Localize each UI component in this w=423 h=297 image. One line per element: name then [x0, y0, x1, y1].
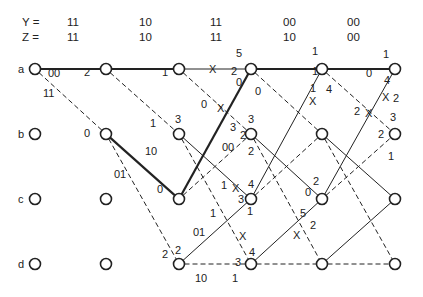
- state-node-d-0: [30, 259, 41, 270]
- state-node-a-1: [101, 64, 112, 75]
- metric-label: 2: [354, 105, 360, 117]
- branch-metric-labels: 0011201100113052000332002143110122101341…: [43, 45, 399, 284]
- cross-mark-icon: X: [209, 63, 217, 75]
- state-node-b-2: [174, 129, 185, 140]
- state-node-c-1: [101, 194, 112, 205]
- state-node-a-0: [30, 64, 41, 75]
- state-node-a-4: [317, 64, 328, 75]
- header-y-row: Y = 11 10 11 00 00: [22, 16, 360, 28]
- state-node-b-5: [390, 129, 401, 140]
- metric-label: 0: [305, 186, 311, 198]
- metric-label: 1: [221, 179, 227, 191]
- y-value-4: 00: [283, 16, 296, 28]
- state-node-c-4: [317, 194, 328, 205]
- state-node-c-0: [30, 194, 41, 205]
- cross-mark-icon: X: [217, 102, 225, 114]
- metric-label: 10: [145, 145, 157, 157]
- state-node-c-3: [246, 194, 257, 205]
- metric-label: 2: [310, 219, 316, 231]
- state-node-b-0: [30, 129, 41, 140]
- header-z-row: Z = 11 10 11 10 00: [22, 31, 360, 43]
- metric-label: 3: [248, 113, 254, 125]
- metric-label: 4: [384, 74, 390, 86]
- y-value-2: 10: [139, 16, 152, 28]
- metric-label: 3: [390, 111, 396, 123]
- trellis-branch-dashed: [110, 73, 175, 131]
- metric-label: 1: [383, 48, 389, 60]
- cross-mark-icon: X: [382, 91, 390, 103]
- state-node-d-2: [174, 259, 185, 270]
- metric-label: 1: [312, 45, 318, 57]
- state-node-a-2: [174, 64, 185, 75]
- metric-label: 5: [300, 207, 306, 219]
- metric-label: 2: [162, 248, 168, 260]
- state-node-c-5: [390, 194, 401, 205]
- y-label: Y =: [22, 16, 40, 28]
- z-value-4: 10: [283, 31, 296, 43]
- metric-label: 2: [248, 145, 254, 157]
- trellis-branch-bold: [110, 138, 175, 196]
- metric-label: 0: [157, 183, 163, 195]
- metric-label: 1: [388, 150, 394, 162]
- cross-mark-icon: X: [309, 95, 317, 107]
- metric-label: 2: [378, 128, 384, 140]
- metric-label: 0: [255, 85, 261, 97]
- state-node-a-5: [390, 64, 401, 75]
- metric-label: 3: [230, 121, 236, 133]
- metric-label: 1: [310, 82, 316, 94]
- metric-label: 4: [248, 178, 254, 190]
- trellis-branch-solid: [326, 203, 391, 261]
- state-label-a: a: [18, 63, 25, 75]
- cross-mark-icon: X: [239, 230, 247, 242]
- state-node-c-2: [174, 194, 185, 205]
- metric-label: 2: [240, 129, 246, 141]
- state-node-b-1: [101, 129, 112, 140]
- trellis-edges: [39, 69, 392, 264]
- state-node-a-3: [246, 64, 257, 75]
- state-node-b-3: [246, 129, 257, 140]
- y-value-3: 11: [210, 16, 222, 28]
- metric-label: 1: [150, 117, 156, 129]
- metric-label: 2: [313, 175, 319, 187]
- metric-label: 1: [162, 66, 168, 78]
- z-value-5: 00: [347, 31, 360, 43]
- metric-label: 00: [48, 67, 60, 79]
- cross-mark-icon: X: [232, 182, 240, 194]
- metric-label: 3: [175, 113, 181, 125]
- state-node-d-5: [390, 259, 401, 270]
- metric-label: 1: [210, 207, 216, 219]
- metric-label: 2: [393, 92, 399, 104]
- z-value-1: 11: [67, 31, 79, 43]
- trellis-branch-dashed: [109, 139, 177, 259]
- metric-label: 0: [366, 67, 372, 79]
- metric-label: 2: [84, 66, 90, 78]
- state-node-d-3: [246, 259, 257, 270]
- metric-label: 5: [236, 47, 242, 59]
- trellis-branch-dashed: [254, 139, 320, 259]
- metric-label: 10: [195, 272, 207, 284]
- trellis-branch-bold: [182, 74, 249, 194]
- metric-label: 1: [247, 205, 253, 217]
- metric-label: 01: [114, 168, 126, 180]
- metric-label: 4: [249, 246, 255, 258]
- y-value-1: 11: [67, 16, 79, 28]
- z-value-3: 11: [210, 31, 222, 43]
- trellis-branch-dashed: [325, 139, 393, 259]
- metric-label: 11: [43, 87, 54, 99]
- state-node-d-4: [317, 259, 328, 270]
- cross-mark-icon: X: [365, 107, 373, 119]
- metric-label: 3: [235, 256, 241, 268]
- trellis-diagram: Y = 11 10 11 00 00 Z = 11 10 11 10 00 a …: [0, 0, 423, 297]
- metric-label: 00: [222, 141, 234, 153]
- z-label: Z =: [22, 31, 39, 43]
- metric-label: 4: [326, 83, 332, 95]
- state-node-d-1: [101, 259, 112, 270]
- y-value-5: 00: [347, 16, 360, 28]
- state-node-b-4: [317, 129, 328, 140]
- metric-label: 01: [193, 226, 205, 238]
- metric-label: 1: [232, 272, 238, 284]
- trellis-branch-solid: [255, 203, 318, 261]
- metric-label: 3: [238, 193, 244, 205]
- metric-label: 0: [201, 98, 207, 110]
- trellis-branch-dashed: [39, 73, 102, 131]
